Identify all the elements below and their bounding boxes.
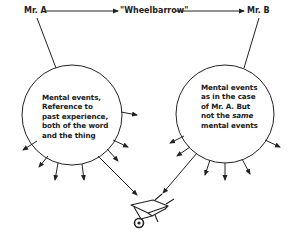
connector-speaker-circle — [37, 18, 56, 68]
speaker-label: Mr. A — [24, 6, 47, 16]
right-circle-rays — [163, 136, 280, 193]
wheelbarrow-icon — [131, 194, 174, 228]
right-circle-text: Mental events as in the case of Mr. A. B… — [201, 83, 258, 130]
right-circle-line4-prefix: not the — [201, 111, 232, 120]
right-circle-line: as in the case — [201, 92, 258, 101]
right-circle-line: Mental events — [201, 83, 258, 92]
left-circle-line: Reference to — [42, 102, 108, 111]
right-circle-line: mental events — [201, 121, 258, 130]
left-circle-text: Mental events, Reference to past experie… — [42, 93, 108, 140]
left-circle-line: Mental events, — [42, 93, 108, 102]
left-circle-line: past experience, — [42, 112, 108, 121]
wheelbarrow-communication-diagram: Mr. A "Wheelbarrow" Mr. B Mental events,… — [0, 0, 288, 233]
right-circle-line: not the same — [201, 111, 258, 120]
word-label: "Wheelbarrow" — [120, 6, 188, 16]
right-circle-line: of Mr. A. But — [201, 102, 258, 111]
left-circle-line: and the thing — [42, 131, 108, 140]
connector-listener-circle — [244, 18, 259, 68]
listener-label: Mr. B — [247, 6, 270, 16]
left-circle-line: both of the word — [42, 121, 108, 130]
emphasis-same: same — [232, 111, 253, 120]
